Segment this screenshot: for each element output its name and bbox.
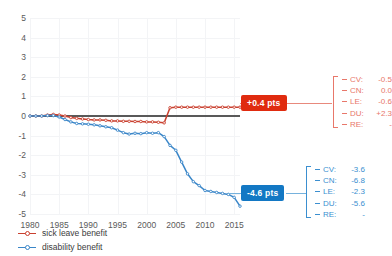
data-point xyxy=(157,131,160,134)
annotation-value: 0.0 xyxy=(368,85,392,96)
data-point xyxy=(46,114,49,117)
data-point xyxy=(70,116,73,119)
x-tick-label: 2015 xyxy=(225,220,244,230)
annotation-value: -0.5 xyxy=(368,74,392,85)
badge-disability-delta: -4.6 pts xyxy=(241,185,284,201)
annotation-rows-top: CV:-0.5CN:0.0LE:-0.6DU:+2.3RE:- xyxy=(342,74,392,130)
legend-swatch-icon xyxy=(18,242,36,252)
data-point xyxy=(180,106,183,109)
annotation-value: -5.6 xyxy=(341,198,365,209)
data-point xyxy=(35,115,38,118)
data-point xyxy=(110,127,113,130)
annotation-tick xyxy=(342,124,347,125)
data-point xyxy=(105,119,108,122)
leader-line-bottom xyxy=(228,193,242,194)
annotation-value: - xyxy=(341,209,365,220)
y-tick-label: 0 xyxy=(2,111,26,121)
data-point xyxy=(198,184,201,187)
data-point xyxy=(204,106,207,109)
data-point xyxy=(175,106,178,109)
data-point xyxy=(93,124,96,127)
annotation-row: RE:- xyxy=(315,209,365,220)
data-point xyxy=(134,132,137,135)
annotation-row: CN:0.0 xyxy=(342,85,392,96)
data-point xyxy=(81,123,84,126)
data-point xyxy=(163,122,166,125)
annotation-tick xyxy=(342,113,347,114)
data-point xyxy=(169,144,172,147)
annotation-tick xyxy=(315,169,320,170)
data-point xyxy=(93,119,96,122)
annotation-row: RE:- xyxy=(342,119,392,130)
legend-item-sick-leave[interactable]: sick leave benefit xyxy=(18,226,218,240)
annotation-tick xyxy=(315,203,320,204)
data-point xyxy=(169,107,172,110)
data-point xyxy=(163,135,166,138)
y-tick-label: -2 xyxy=(2,150,26,160)
data-point xyxy=(210,106,213,109)
data-point xyxy=(175,149,178,152)
series-line-disability xyxy=(30,116,240,207)
data-point xyxy=(116,129,119,132)
data-point xyxy=(198,106,201,109)
annotation-key: CN: xyxy=(323,175,341,186)
legend-item-disability[interactable]: disability benefit xyxy=(18,240,218,254)
data-point xyxy=(81,118,84,121)
annotation-row: DU:-5.6 xyxy=(315,198,365,209)
annotation-value: -2.3 xyxy=(341,186,365,197)
data-point xyxy=(233,106,236,109)
data-point xyxy=(75,122,78,125)
legend-label: sick leave benefit xyxy=(42,228,107,238)
annotation-tick xyxy=(315,214,320,215)
data-point xyxy=(40,115,43,118)
data-point xyxy=(210,190,213,193)
data-point xyxy=(29,115,32,118)
chart-title xyxy=(0,0,392,9)
data-point xyxy=(157,121,160,124)
data-point xyxy=(128,120,131,123)
data-point xyxy=(140,120,143,123)
annotation-key: CV: xyxy=(323,164,341,175)
data-point xyxy=(233,196,236,199)
annotation-table-sick-leave: CV:-0.5CN:0.0LE:-0.6DU:+2.3RE:- xyxy=(333,74,392,130)
annotation-row: CV:-0.5 xyxy=(342,74,392,85)
annotation-rows-bottom: CV:-3.6CN:-6.8LE:-2.3DU:-5.6RE:- xyxy=(315,164,365,220)
annotation-value: -0.6 xyxy=(368,96,392,107)
y-axis-ticks: 543210-1-2-3-4-5 xyxy=(0,18,26,214)
data-point xyxy=(145,131,148,134)
data-point xyxy=(215,191,218,194)
data-point xyxy=(64,118,67,121)
data-point xyxy=(145,121,148,124)
data-point xyxy=(58,116,61,119)
data-point xyxy=(134,120,137,123)
data-point xyxy=(204,189,207,192)
badge-sick-leave-delta: +0.4 pts xyxy=(241,95,287,111)
annotation-table-disability: CV:-3.6CN:-6.8LE:-2.3DU:-5.6RE:- xyxy=(306,164,365,220)
y-tick-label: 3 xyxy=(2,52,26,62)
annotation-tick xyxy=(315,180,320,181)
data-point xyxy=(75,117,78,120)
brace-top xyxy=(333,76,338,128)
y-tick-label: 5 xyxy=(2,13,26,23)
data-point xyxy=(105,126,108,129)
annotation-row: LE:-2.3 xyxy=(315,186,365,197)
data-point xyxy=(221,192,224,195)
annotation-tick xyxy=(342,101,347,102)
series-lines xyxy=(30,18,240,214)
legend: sick leave benefitdisability benefit xyxy=(18,226,218,254)
y-tick-label: 2 xyxy=(2,72,26,82)
annotation-tick xyxy=(342,90,347,91)
y-tick-label: -5 xyxy=(2,209,26,219)
data-point xyxy=(87,118,90,121)
data-point xyxy=(70,121,73,124)
data-point xyxy=(239,205,242,208)
data-point xyxy=(87,123,90,126)
data-point xyxy=(151,121,154,124)
annotation-key: DU: xyxy=(350,108,368,119)
gridline-horizontal xyxy=(30,214,240,215)
annotation-tick xyxy=(315,191,320,192)
annotation-value: -3.6 xyxy=(341,164,365,175)
data-point xyxy=(99,125,102,128)
legend-swatch-icon xyxy=(18,228,36,238)
data-point xyxy=(140,132,143,135)
